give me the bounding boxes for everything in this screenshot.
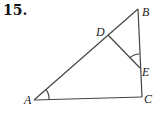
- segment-ab: [34, 9, 138, 100]
- label-a: A: [23, 93, 32, 107]
- segment-ac: [34, 97, 142, 100]
- label-c: C: [144, 92, 153, 106]
- label-b: B: [142, 5, 150, 19]
- angle-e-mark: [130, 54, 139, 58]
- label-e: E: [141, 65, 150, 79]
- segment-de: [108, 35, 140, 68]
- angle-a-mark: [46, 90, 49, 100]
- segment-bc: [138, 9, 142, 97]
- triangle-diagram: A B C D E: [0, 0, 157, 116]
- label-d: D: [95, 25, 105, 39]
